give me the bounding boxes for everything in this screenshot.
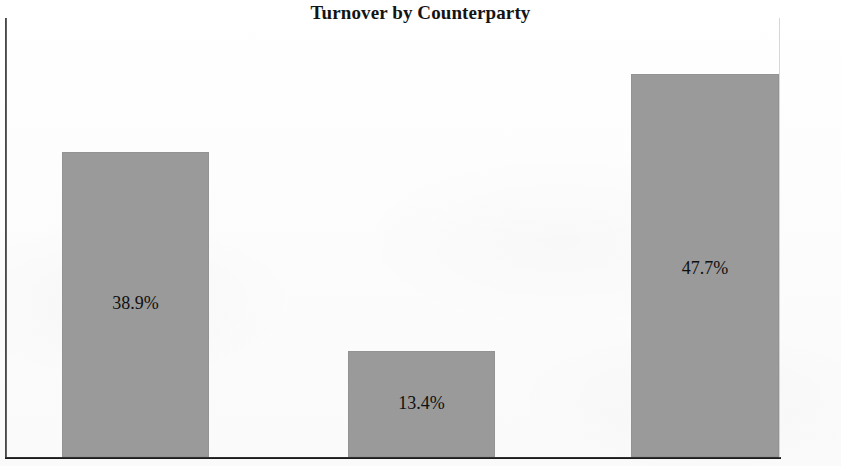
plot-right-edge (779, 18, 780, 458)
plot-area: 38.9% 13.4% 47.7% (5, 18, 781, 459)
bar[interactable]: 38.9% (62, 152, 209, 457)
x-axis-baseline (5, 457, 781, 459)
bar-value-label: 13.4% (348, 393, 495, 414)
y-axis-line (5, 18, 7, 459)
bar-value-label: 47.7% (631, 258, 779, 279)
bar[interactable]: 47.7% (631, 74, 779, 457)
bar-value-label: 38.9% (62, 293, 209, 314)
bar[interactable]: 13.4% (348, 351, 495, 457)
bar-chart-figure: Turnover by Counterparty 38.9% 13.4% 47.… (0, 0, 841, 466)
